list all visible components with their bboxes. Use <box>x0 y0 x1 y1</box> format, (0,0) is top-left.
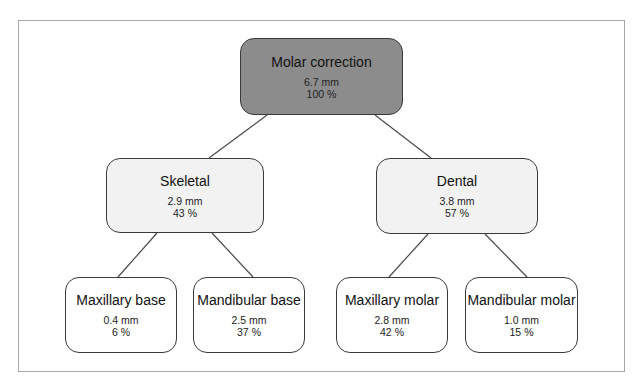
link-root-skeletal <box>209 115 267 158</box>
node-maxillary-molar: Maxillary molar 2.8 mm 42 % <box>336 277 448 353</box>
node-value: 2.5 mm <box>231 314 266 326</box>
link-dental-maxillary-molar <box>389 234 428 277</box>
node-value: 6.7 mm <box>304 76 339 88</box>
link-skeletal-mandibular-base <box>212 233 253 277</box>
node-dental: Dental 3.8 mm 57 % <box>376 158 538 234</box>
node-value: 1.0 mm <box>504 314 539 326</box>
link-skeletal-maxillary-base <box>118 233 157 277</box>
node-title: Maxillary base <box>76 292 165 309</box>
node-title: Molar correction <box>271 54 371 71</box>
node-value: 0.4 mm <box>103 314 138 326</box>
node-value: 2.8 mm <box>374 314 409 326</box>
node-mandibular-molar: Mandibular molar 1.0 mm 15 % <box>465 277 578 353</box>
node-maxillary-base: Maxillary base 0.4 mm 6 % <box>65 277 177 353</box>
node-percent: 57 % <box>445 207 469 219</box>
node-percent: 43 % <box>173 207 197 219</box>
node-percent: 6 % <box>112 326 130 338</box>
link-dental-mandibular-molar <box>485 234 527 277</box>
node-percent: 100 % <box>307 88 337 100</box>
node-title: Dental <box>437 173 477 190</box>
node-title: Maxillary molar <box>345 292 439 309</box>
node-molar-correction: Molar correction 6.7 mm 100 % <box>240 38 403 115</box>
node-title: Skeletal <box>160 173 210 190</box>
node-percent: 15 % <box>510 326 534 338</box>
node-value: 3.8 mm <box>439 195 474 207</box>
node-title: Mandibular base <box>197 292 301 309</box>
node-value: 2.9 mm <box>167 195 202 207</box>
node-percent: 42 % <box>380 326 404 338</box>
node-percent: 37 % <box>237 326 261 338</box>
node-skeletal: Skeletal 2.9 mm 43 % <box>106 158 264 233</box>
node-mandibular-base: Mandibular base 2.5 mm 37 % <box>193 277 305 353</box>
node-title: Mandibular molar <box>467 292 575 309</box>
link-root-dental <box>375 115 431 158</box>
